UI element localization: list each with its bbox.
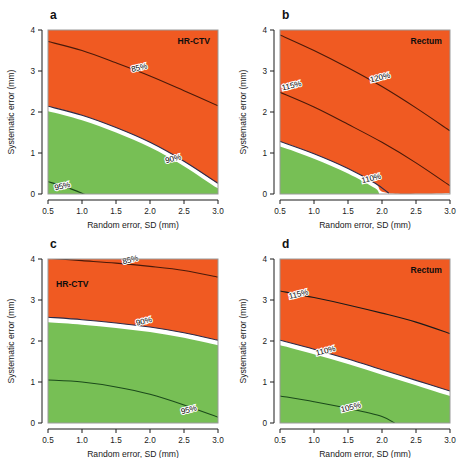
panel-title: Rectum xyxy=(410,265,442,275)
y-tick-label: 0 xyxy=(262,419,267,428)
y-tick-label: 4 xyxy=(262,255,267,264)
x-tick-label: 3.0 xyxy=(212,436,224,445)
x-tick-label: 2.5 xyxy=(410,436,422,445)
y-tick-label: 2 xyxy=(262,108,267,117)
panel-c: 85%90%95%0.51.01.52.02.53.0Random error,… xyxy=(0,229,232,458)
y-tick-label: 4 xyxy=(262,26,267,35)
panel-a: 85%90%95%0.51.01.52.02.53.0Random error,… xyxy=(0,0,232,229)
x-tick-label: 3.0 xyxy=(444,207,456,216)
panel-title: HR-CTV xyxy=(56,279,89,289)
x-tick-label: 3.0 xyxy=(444,436,456,445)
y-axis-title: Systematic error (mm) xyxy=(6,69,16,154)
x-tick-label: 2.5 xyxy=(410,207,422,216)
panel-title: Rectum xyxy=(410,36,442,46)
x-tick-label: 2.5 xyxy=(178,436,190,445)
y-tick-label: 2 xyxy=(30,108,35,117)
panel-b: 120%115%110%0.51.01.52.02.53.0Random err… xyxy=(232,0,464,229)
y-axis-title: Systematic error (mm) xyxy=(6,298,16,383)
panel-title: HR-CTV xyxy=(178,36,211,46)
x-tick-label: 2.5 xyxy=(178,207,190,216)
y-tick-label: 3 xyxy=(30,67,35,76)
panel-letter-a: a xyxy=(50,8,57,22)
x-tick-label: 0.5 xyxy=(42,436,54,445)
x-tick-label: 1.0 xyxy=(76,436,88,445)
x-tick-label: 1.5 xyxy=(110,207,122,216)
x-tick-label: 3.0 xyxy=(212,207,224,216)
x-tick-label: 1.5 xyxy=(342,207,354,216)
x-tick-label: 2.0 xyxy=(144,436,156,445)
y-tick-label: 2 xyxy=(262,337,267,346)
x-tick-label: 2.0 xyxy=(376,436,388,445)
y-tick-label: 4 xyxy=(30,26,35,35)
y-axis-title: Systematic error (mm) xyxy=(238,69,248,154)
x-axis-title: Random error, SD (mm) xyxy=(87,449,179,458)
x-tick-label: 2.0 xyxy=(376,207,388,216)
panel-letter-b: b xyxy=(282,8,289,22)
y-axis-title: Systematic error (mm) xyxy=(238,298,248,383)
x-tick-label: 0.5 xyxy=(274,436,286,445)
y-tick-label: 1 xyxy=(262,149,267,158)
y-tick-label: 0 xyxy=(30,419,35,428)
panel-d: 115%110%105%0.51.01.52.02.53.0Random err… xyxy=(232,229,464,458)
y-tick-label: 3 xyxy=(30,296,35,305)
panel-letter-d: d xyxy=(282,237,289,251)
y-tick-label: 4 xyxy=(30,255,35,264)
y-tick-label: 3 xyxy=(262,296,267,305)
figure-canvas: 85%90%95%0.51.01.52.02.53.0Random error,… xyxy=(0,0,464,458)
x-tick-label: 1.0 xyxy=(308,436,320,445)
y-tick-label: 2 xyxy=(30,337,35,346)
x-tick-label: 0.5 xyxy=(274,207,286,216)
y-tick-label: 0 xyxy=(30,190,35,199)
x-tick-label: 0.5 xyxy=(42,207,54,216)
x-tick-label: 1.0 xyxy=(76,207,88,216)
x-axis-title: Random error, SD (mm) xyxy=(319,449,411,458)
panel-letter-c: c xyxy=(50,237,57,251)
y-tick-label: 1 xyxy=(262,378,267,387)
y-tick-label: 1 xyxy=(30,378,35,387)
x-tick-label: 1.5 xyxy=(110,436,122,445)
x-tick-label: 2.0 xyxy=(144,207,156,216)
y-tick-label: 1 xyxy=(30,149,35,158)
y-tick-label: 0 xyxy=(262,190,267,199)
x-tick-label: 1.5 xyxy=(342,436,354,445)
x-tick-label: 1.0 xyxy=(308,207,320,216)
y-tick-label: 3 xyxy=(262,67,267,76)
